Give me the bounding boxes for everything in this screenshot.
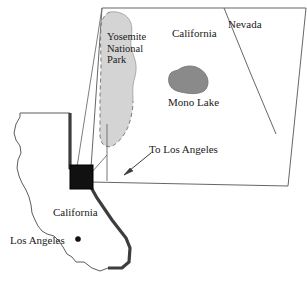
label-yosemite-line1: Yosemite (107, 31, 146, 43)
label-yosemite-line2: National (107, 43, 146, 55)
detail-area-box (70, 165, 93, 189)
label-california-state: California (53, 206, 98, 218)
label-yosemite-national-park: Yosemite National Park (107, 31, 146, 66)
label-to-los-angeles: To Los Angeles (149, 143, 218, 155)
label-california-inset: California (172, 27, 217, 39)
label-mono-lake: Mono Lake (168, 96, 219, 108)
label-yosemite-line3: Park (107, 54, 146, 66)
label-nevada: Nevada (228, 18, 262, 30)
los-angeles-dot (75, 236, 80, 241)
map-figure: Yosemite National Park California Nevada… (0, 0, 307, 284)
label-los-angeles: Los Angeles (10, 234, 65, 246)
